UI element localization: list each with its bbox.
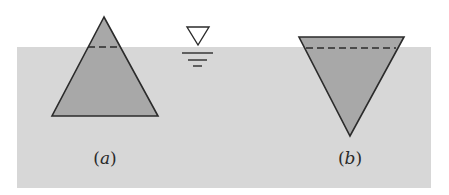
label-a-letter: a: [100, 148, 110, 168]
label-b-open-paren: (: [338, 148, 345, 168]
free-surface-triangle-icon: [187, 27, 209, 45]
label-b-letter: b: [345, 148, 356, 168]
label-a: (a): [93, 148, 116, 168]
label-b: (b): [338, 148, 362, 168]
figure-canvas: (a) (b): [0, 0, 449, 195]
label-a-close-paren: ): [110, 148, 117, 168]
figure-svg: [0, 0, 449, 195]
label-a-open-paren: (: [93, 148, 100, 168]
label-b-close-paren: ): [355, 148, 362, 168]
